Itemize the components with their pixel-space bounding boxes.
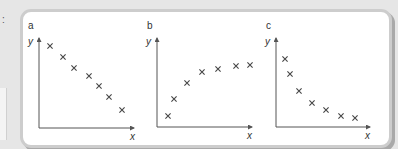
cross-marker <box>296 88 301 93</box>
cross-marker <box>96 83 101 88</box>
cross-marker <box>215 66 220 71</box>
cross-marker <box>323 107 328 112</box>
cross-marker <box>309 100 314 105</box>
cross-marker <box>199 69 204 74</box>
markers-b <box>165 62 252 118</box>
x-axis-label-b: x <box>246 130 253 141</box>
panel-label-c: c <box>266 20 271 31</box>
x-axis-label-a: x <box>129 131 136 142</box>
cross-marker <box>338 113 343 118</box>
panel-a: a y x <box>27 20 136 142</box>
markers-c <box>282 56 357 120</box>
y-axis-label-b: y <box>145 36 152 47</box>
cross-marker <box>86 73 91 78</box>
cross-marker <box>106 94 111 99</box>
cross-marker <box>282 56 287 61</box>
cross-marker <box>165 113 170 118</box>
cross-marker <box>171 96 176 101</box>
cross-marker <box>71 65 76 70</box>
markers-a <box>47 43 124 112</box>
x-axis-label-c: x <box>364 130 371 141</box>
scatter-plots: a y x b y x c y x <box>0 0 398 149</box>
cross-marker <box>184 80 189 85</box>
cross-marker <box>287 71 292 76</box>
y-axis-label-a: y <box>27 36 34 47</box>
cross-marker <box>119 107 124 112</box>
y-axis-label-c: y <box>264 36 271 47</box>
cross-marker <box>352 115 357 120</box>
panel-label-b: b <box>147 20 153 31</box>
cross-marker <box>60 54 65 59</box>
panel-label-a: a <box>28 20 34 31</box>
cross-marker <box>47 43 52 48</box>
cross-marker <box>247 62 252 67</box>
panel-b: b y x <box>145 20 253 141</box>
panel-c: c y x <box>264 20 371 141</box>
cross-marker <box>233 63 238 68</box>
